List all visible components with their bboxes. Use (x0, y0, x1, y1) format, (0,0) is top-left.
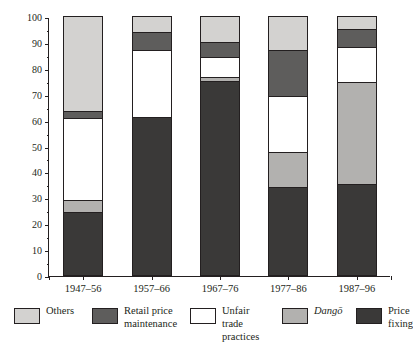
y-tick-label: 100 (5, 13, 49, 23)
x-tick-mark (49, 276, 50, 280)
bar-segment (63, 118, 103, 201)
legend-label: Price fixing (388, 305, 413, 331)
x-tick-mark (357, 276, 358, 280)
bar-segment (132, 117, 172, 276)
y-tick-label: 80 (5, 65, 49, 75)
y-tick-label: 10 (5, 246, 49, 256)
x-tick-mark (288, 276, 289, 280)
legend-label: Retail price maintenance (124, 305, 177, 331)
y-tick-label: 60 (5, 117, 49, 127)
bar-segment (132, 16, 172, 33)
legend-swatch (14, 308, 40, 324)
legend-swatch (190, 308, 216, 324)
bar-segment (337, 16, 377, 30)
y-tick-label: 40 (5, 168, 49, 178)
y-tick-mark (47, 186, 50, 187)
bar-segment (200, 42, 240, 59)
bar-segment (63, 111, 103, 120)
bar-segment (132, 32, 172, 51)
bar-segment (63, 16, 103, 112)
bar-segment (268, 187, 308, 276)
bar-segment (268, 96, 308, 153)
bar-segment (63, 212, 103, 276)
bar-1977–86 (268, 17, 308, 276)
y-tick-mark (47, 238, 50, 239)
bar-segment (200, 57, 240, 77)
y-tick-label: 30 (5, 194, 49, 204)
x-tick-mark (391, 276, 392, 280)
y-tick-mark (47, 31, 50, 32)
y-tick-mark (47, 160, 50, 161)
bar-segment (337, 47, 377, 83)
legend-label: Others (46, 305, 74, 318)
y-tick-mark (47, 135, 50, 136)
bar-segment (337, 29, 377, 48)
y-tick-label: 0 (5, 272, 49, 282)
bar-1957–66 (132, 17, 172, 276)
y-tick-label: 20 (5, 220, 49, 230)
bar-segment (337, 82, 377, 185)
plot-area: Share % 0102030405060708090100 1947–5619… (48, 18, 390, 277)
legend-label: Unfair trade practices (222, 305, 259, 343)
bar-segment (200, 81, 240, 276)
bar-segment (63, 200, 103, 213)
y-tick-mark (47, 57, 50, 58)
bar-segment (132, 50, 172, 118)
legend-label: Dangō (314, 305, 343, 318)
chart-legend: OthersRetail price maintenanceUnfair tra… (14, 303, 400, 341)
y-tick-label: 90 (5, 39, 49, 49)
y-tick-mark (47, 83, 50, 84)
legend-swatch (282, 308, 308, 324)
bar-segment (268, 152, 308, 188)
bar-segment (268, 16, 308, 51)
y-tick-label: 70 (5, 91, 49, 101)
x-tick-mark (152, 276, 153, 280)
x-tick-mark (83, 276, 84, 280)
bar-segment (268, 50, 308, 98)
x-tick-mark (220, 276, 221, 280)
y-tick-mark (47, 212, 50, 213)
bar-segment (200, 16, 240, 43)
bar-1947–56 (63, 17, 103, 276)
x-tick-label: 1987–96 (315, 283, 399, 295)
y-tick-mark (47, 264, 50, 265)
legend-swatch (92, 308, 118, 324)
bar-1967–76 (200, 17, 240, 276)
bar-segment (337, 184, 377, 276)
legend-swatch (356, 308, 382, 324)
y-tick-mark (47, 109, 50, 110)
y-tick-label: 50 (5, 143, 49, 153)
bar-1987–96 (337, 17, 377, 276)
